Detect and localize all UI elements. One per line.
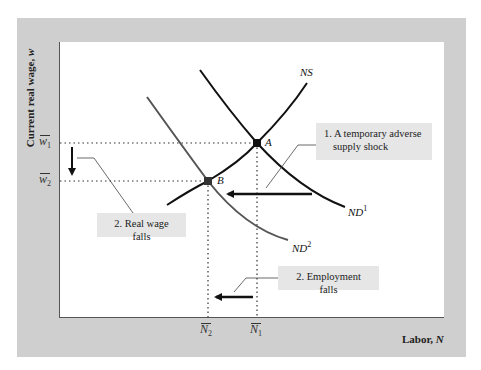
- nd1-label: ND1: [348, 204, 367, 218]
- callout-supply-shock-line2: supply shock: [324, 140, 424, 153]
- nd2-label: ND2: [292, 240, 311, 254]
- callout-wage-falls: 2. Real wage falls: [97, 213, 186, 237]
- callout-supply-shock: 1. A temporary adverse supply shock: [316, 123, 432, 160]
- x-tick-n2: N2: [200, 322, 212, 338]
- ns-curve: [167, 83, 307, 205]
- x-tick-n1: N1: [250, 322, 262, 338]
- shock-leader-line: [266, 145, 316, 188]
- employment-leader-line: [234, 278, 278, 292]
- callout-employment-falls: 2. Employment falls: [278, 266, 379, 290]
- point-a-label: A: [265, 136, 272, 148]
- wage-leader-line: [77, 158, 133, 213]
- x-axis-label: Labor, N: [402, 333, 444, 345]
- y-axis-variable: w: [24, 49, 36, 56]
- point-a-marker: [253, 139, 261, 147]
- point-b-marker: [204, 177, 212, 185]
- y-axis-label-text: Current real wage,: [24, 56, 36, 147]
- ns-label: NS: [300, 66, 313, 78]
- x-axis-label-text: Labor,: [402, 333, 436, 345]
- y-tick-w2: w2: [39, 172, 51, 188]
- diagram-canvas: [0, 0, 481, 370]
- y-axis-label: Current real wage, w: [24, 49, 36, 148]
- y-tick-w1: w1: [39, 134, 51, 150]
- point-b-label: B: [217, 174, 224, 186]
- x-axis-variable: N: [436, 333, 444, 345]
- callout-supply-shock-line1: 1. A temporary adverse: [324, 127, 424, 140]
